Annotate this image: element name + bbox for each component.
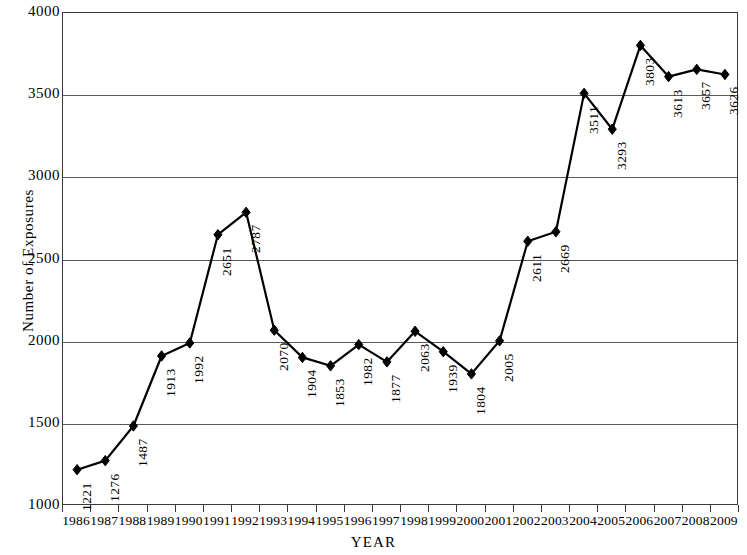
data-point-label: 3511 bbox=[587, 106, 601, 134]
y-axis-tick-label: 2000 bbox=[8, 333, 60, 348]
data-point-label: 1877 bbox=[389, 374, 403, 403]
x-axis-tick-mark bbox=[682, 505, 683, 512]
x-axis-tick-label: 1995 bbox=[316, 513, 344, 529]
y-axis-tick-label: 1000 bbox=[8, 497, 60, 512]
data-point-label: 3626 bbox=[727, 87, 741, 116]
x-axis-tick-mark bbox=[62, 505, 63, 512]
y-axis-tick-label: 1500 bbox=[8, 415, 60, 430]
data-point-label: 1992 bbox=[192, 355, 206, 384]
x-axis-tick-mark bbox=[513, 505, 514, 512]
x-axis-tick-mark bbox=[738, 505, 739, 512]
data-point-label: 2669 bbox=[558, 244, 572, 273]
x-axis-tick-label: 1997 bbox=[372, 513, 400, 529]
x-axis-tick-label: 1996 bbox=[344, 513, 372, 529]
x-axis-tick-label: 1988 bbox=[118, 513, 146, 529]
x-axis-tick-mark bbox=[710, 505, 711, 512]
x-axis-tick-mark bbox=[541, 505, 542, 512]
x-axis-title: YEAR bbox=[0, 534, 747, 551]
x-axis-tick-label: 1990 bbox=[175, 513, 203, 529]
data-series-line bbox=[63, 13, 739, 506]
x-axis-tick-mark bbox=[625, 505, 626, 512]
x-axis-tick-label: 2002 bbox=[513, 513, 541, 529]
data-point-label: 1982 bbox=[361, 357, 375, 386]
data-point-label: 3803 bbox=[643, 58, 657, 87]
x-axis-tick-mark bbox=[569, 505, 570, 512]
x-axis-tick-label: 1998 bbox=[400, 513, 428, 529]
x-axis-tick-mark bbox=[203, 505, 204, 512]
data-point-label: 1804 bbox=[474, 386, 488, 415]
y-axis-tick-label: 3000 bbox=[8, 168, 60, 183]
x-axis-tick-label: 2009 bbox=[710, 513, 738, 529]
x-axis-tick-label: 1989 bbox=[147, 513, 175, 529]
y-axis-tick-labels: 4000350030002500200015001000 bbox=[0, 0, 60, 555]
data-point-label: 2063 bbox=[418, 344, 432, 373]
x-axis-tick-marks bbox=[62, 505, 738, 513]
data-point-label: 1904 bbox=[305, 370, 319, 399]
data-point-label: 1939 bbox=[446, 364, 460, 393]
data-point-label: 1487 bbox=[136, 438, 150, 467]
x-axis-tick-label: 1992 bbox=[231, 513, 259, 529]
x-axis-tick-mark bbox=[259, 505, 260, 512]
x-axis-tick-mark bbox=[456, 505, 457, 512]
x-axis-tick-labels: 1986198719881989199019911992199319941995… bbox=[0, 513, 747, 533]
data-point-marker bbox=[693, 64, 701, 74]
data-point-label: 1853 bbox=[333, 378, 347, 407]
x-axis-tick-mark bbox=[118, 505, 119, 512]
x-axis-tick-mark bbox=[175, 505, 176, 512]
data-point-label: 3293 bbox=[615, 142, 629, 171]
x-axis-tick-label: 1987 bbox=[90, 513, 118, 529]
y-axis-tick-label: 2500 bbox=[8, 251, 60, 266]
x-axis-tick-label: 2006 bbox=[625, 513, 653, 529]
x-axis-tick-label: 1994 bbox=[287, 513, 315, 529]
x-axis-tick-label: 1999 bbox=[428, 513, 456, 529]
x-axis-tick-mark bbox=[372, 505, 373, 512]
line-chart: Number of Exposures 40003500300025002000… bbox=[0, 0, 747, 555]
x-axis-tick-label: 2000 bbox=[456, 513, 484, 529]
data-point-marker bbox=[355, 339, 363, 349]
x-axis-tick-mark bbox=[231, 505, 232, 512]
data-point-marker bbox=[721, 69, 729, 79]
y-axis-tick-label: 3500 bbox=[8, 86, 60, 101]
x-axis-tick-mark bbox=[485, 505, 486, 512]
data-point-label: 2070 bbox=[277, 343, 291, 372]
data-point-label: 2005 bbox=[502, 353, 516, 382]
data-point-marker bbox=[524, 236, 532, 246]
data-point-label: 2787 bbox=[249, 225, 263, 254]
x-axis-tick-label: 1991 bbox=[203, 513, 231, 529]
data-point-marker bbox=[552, 227, 560, 237]
data-point-label: 3657 bbox=[699, 82, 713, 111]
x-axis-tick-mark bbox=[400, 505, 401, 512]
x-axis-tick-label: 2004 bbox=[569, 513, 597, 529]
data-point-label: 2651 bbox=[220, 247, 234, 276]
data-point-marker bbox=[439, 346, 447, 356]
data-point-marker bbox=[242, 207, 250, 217]
data-point-label: 1913 bbox=[164, 368, 178, 397]
x-axis-tick-label: 2003 bbox=[541, 513, 569, 529]
data-point-label: 1221 bbox=[80, 482, 94, 511]
x-axis-tick-label: 2008 bbox=[682, 513, 710, 529]
x-axis-tick-mark bbox=[147, 505, 148, 512]
x-axis-tick-label: 2007 bbox=[654, 513, 682, 529]
data-point-label: 3613 bbox=[671, 89, 685, 118]
data-point-label: 1276 bbox=[108, 473, 122, 502]
data-point-label: 2611 bbox=[530, 254, 544, 282]
plot-area bbox=[62, 12, 738, 505]
data-point-marker bbox=[327, 361, 335, 371]
x-axis-tick-mark bbox=[428, 505, 429, 512]
x-axis-tick-label: 1993 bbox=[259, 513, 287, 529]
data-point-marker bbox=[158, 351, 166, 361]
x-axis-tick-label: 1986 bbox=[62, 513, 90, 529]
x-axis-tick-mark bbox=[654, 505, 655, 512]
x-axis-tick-mark bbox=[597, 505, 598, 512]
x-axis-tick-mark bbox=[316, 505, 317, 512]
data-point-marker bbox=[73, 464, 81, 474]
x-axis-tick-label: 2005 bbox=[597, 513, 625, 529]
x-axis-tick-mark bbox=[287, 505, 288, 512]
data-point-marker bbox=[186, 338, 194, 348]
x-axis-tick-mark bbox=[344, 505, 345, 512]
y-axis-tick-label: 4000 bbox=[8, 4, 60, 19]
x-axis-tick-label: 2001 bbox=[485, 513, 513, 529]
